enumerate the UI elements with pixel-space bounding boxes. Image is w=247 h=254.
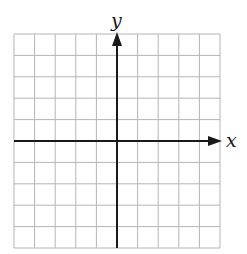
y-axis-label: y — [110, 9, 122, 31]
coordinate-plane: x y — [0, 0, 247, 254]
x-axis-label: x — [226, 129, 237, 151]
